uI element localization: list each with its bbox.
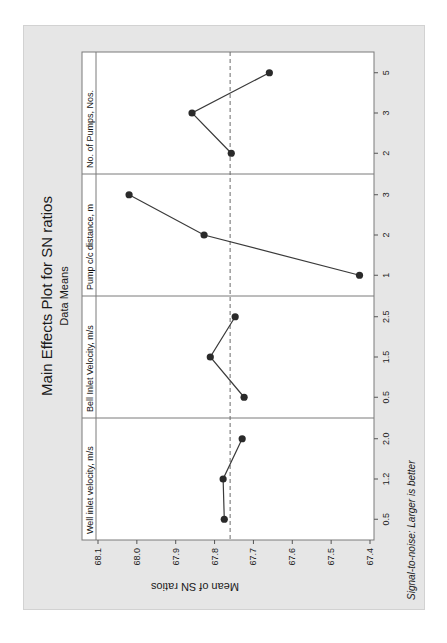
data-point-marker xyxy=(188,109,195,116)
panel-header-label: No. of Pumps, Nos. xyxy=(85,90,95,168)
x-tick-label: 0.5 xyxy=(381,391,391,404)
y-tick-label: 68.1 xyxy=(93,548,103,566)
data-point-marker xyxy=(125,191,132,198)
chart-title: Main Effects Plot for SN ratios xyxy=(38,196,55,396)
data-point-marker xyxy=(266,69,273,76)
x-tick-label: 5 xyxy=(381,70,391,75)
data-point-marker xyxy=(200,231,207,238)
y-tick-label: 67.4 xyxy=(365,548,375,566)
x-tick-label: 0.5 xyxy=(381,513,391,526)
panel-header-label: Pump c/c distance, m xyxy=(85,204,95,290)
y-tick-label: 67.5 xyxy=(326,548,336,566)
y-tick-label: 67.6 xyxy=(287,548,297,566)
data-point-marker xyxy=(221,516,228,523)
x-tick-label: 1 xyxy=(381,273,391,278)
y-tick-label: 67.9 xyxy=(171,548,181,566)
x-tick-label: 1.5 xyxy=(381,351,391,364)
x-tick-label: 2 xyxy=(381,151,391,156)
y-axis: 68.168.067.967.867.767.667.567.4 xyxy=(93,540,375,566)
x-tick-label: 3 xyxy=(381,110,391,115)
x-tick-label: 2.5 xyxy=(381,310,391,323)
panel-header-label: Well inlet velocity, m/s xyxy=(85,446,95,534)
x-tick-label: 3 xyxy=(381,192,391,197)
data-point-marker xyxy=(241,394,248,401)
data-point-marker xyxy=(239,435,246,442)
x-tick-label: 1.2 xyxy=(381,473,391,486)
data-point-marker xyxy=(207,353,214,360)
data-point-marker xyxy=(228,150,235,157)
x-tick-label: 2.0 xyxy=(381,432,391,445)
main-effects-chart: 68.168.067.967.867.767.667.567.4 Well in… xyxy=(0,0,447,643)
y-tick-label: 67.7 xyxy=(248,548,258,566)
y-tick-label: 67.8 xyxy=(210,548,220,566)
panel-header-label: Bell Inlet Velocity, m/s xyxy=(85,325,95,412)
y-axis-label: Mean of SN ratios xyxy=(150,581,239,593)
data-point-marker xyxy=(232,313,239,320)
data-point-marker xyxy=(220,475,227,482)
data-point-marker xyxy=(356,272,363,279)
y-tick-label: 68.0 xyxy=(132,548,142,566)
chart-subtitle: Data Means xyxy=(58,266,70,326)
footnote: Signal-to-noise: Larger is better xyxy=(406,460,417,600)
x-tick-label: 2 xyxy=(381,232,391,237)
